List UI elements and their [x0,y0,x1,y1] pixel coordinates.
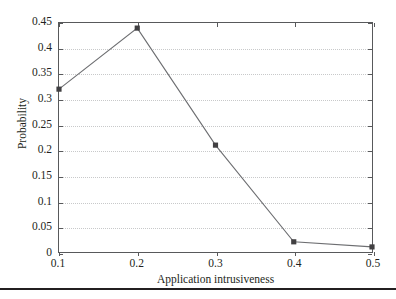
data-point-marker [369,244,374,249]
x-axis-tick-mark [374,252,375,256]
data-point-marker [291,239,296,244]
x-axis-tick-mark [59,252,60,256]
y-axis-tick-label: 0.1 [38,196,52,208]
y-axis-tick-label: 0.15 [32,170,52,182]
y-axis-title: Probability [16,64,29,184]
figure: 00.050.10.150.20.250.30.350.40.45 Probab… [0,0,396,299]
x-axis-tick-labels: 0.10.20.30.40.5 [58,258,373,274]
x-axis-tick-label: 0.3 [208,258,222,270]
x-axis-tick-label: 0.2 [130,258,144,270]
x-axis-tick-mark [138,252,139,256]
y-axis-tick-label: 0.4 [38,42,52,54]
plot-area [58,22,373,253]
y-axis-tick-label: 0.25 [32,119,52,131]
y-axis-tick-label: 0.2 [38,144,52,156]
x-axis-tick-mark-top [374,23,375,27]
x-axis-tick-label: 0.1 [51,258,65,270]
y-axis-tick-label: 0.3 [38,93,52,105]
y-axis-tick-label: 0.45 [32,16,52,28]
data-series-overlay [59,23,372,252]
page-separator-rule [0,288,396,290]
data-point-marker [213,143,218,148]
data-point-marker [135,26,140,31]
y-axis-tick-mark-right [368,254,372,255]
x-axis-title: Application intrusiveness [58,273,373,286]
x-axis-tick-label: 0.5 [366,258,380,270]
data-point-marker [56,87,61,92]
x-axis-tick-label: 0.4 [287,258,301,270]
y-axis-tick-label: 0.05 [32,221,52,233]
x-axis-tick-mark [217,252,218,256]
y-axis-tick-label: 0.35 [32,67,52,79]
x-axis-tick-mark [295,252,296,256]
data-line [59,28,372,247]
